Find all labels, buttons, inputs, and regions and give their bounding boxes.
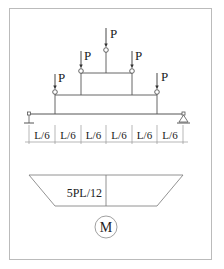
load-label: P xyxy=(135,48,142,63)
diagram-label: M xyxy=(100,220,113,235)
load-p-4: P xyxy=(130,48,143,73)
load-label: P xyxy=(110,26,117,41)
node-circle-icon xyxy=(155,90,160,95)
structural-diagram: P P P P P L/6 L/6 L/6 L/ xyxy=(0,0,224,269)
load-p-2: P xyxy=(79,48,92,73)
span-label: L/6 xyxy=(162,129,178,141)
moment-diagram: 5PL/12 xyxy=(29,175,183,206)
span-label: L/6 xyxy=(34,129,50,141)
span-label: L/6 xyxy=(137,129,153,141)
span-label: L/6 xyxy=(60,129,76,141)
max-moment-label: 5PL/12 xyxy=(67,186,102,200)
node-circle-icon xyxy=(104,48,109,53)
node-circle-icon xyxy=(130,69,135,74)
load-p-3: P xyxy=(104,26,118,52)
span-label: L/6 xyxy=(111,129,127,141)
load-p-5: P xyxy=(155,69,169,94)
load-label: P xyxy=(58,70,65,85)
load-label: P xyxy=(161,69,168,84)
level-2-beam xyxy=(81,72,132,95)
node-circle-icon xyxy=(79,69,84,74)
level-1-beam xyxy=(55,93,157,114)
load-label: P xyxy=(84,48,91,63)
load-p-1: P xyxy=(53,70,66,94)
span-label: L/6 xyxy=(86,129,102,141)
node-circle-icon xyxy=(53,90,58,95)
moment-label-circle: M xyxy=(95,216,117,238)
